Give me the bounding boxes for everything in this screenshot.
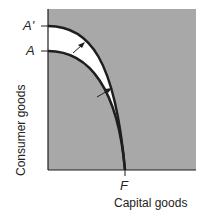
label-f: F bbox=[120, 178, 128, 193]
x-axis-label: Capital goods bbox=[114, 196, 187, 210]
label-a: A bbox=[26, 43, 35, 58]
y-axis-label: Consumer goods bbox=[14, 85, 28, 176]
label-a-prime: A' bbox=[23, 18, 34, 33]
